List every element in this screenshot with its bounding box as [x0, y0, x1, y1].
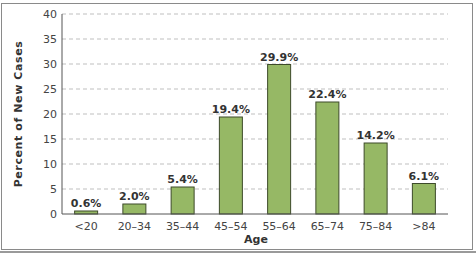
x-tick-label: 45–54 — [214, 220, 248, 233]
bar — [364, 143, 387, 214]
bar — [268, 65, 291, 215]
y-tick-label: 15 — [43, 133, 57, 146]
y-tick-label: 5 — [50, 183, 57, 196]
bar-value-label: 14.2% — [357, 129, 395, 142]
bar — [219, 117, 242, 214]
x-tick-label: 75–84 — [359, 220, 393, 233]
y-axis-label: Percent of New Cases — [12, 41, 25, 188]
y-tick-label: 40 — [43, 8, 57, 21]
bar-value-label: 0.6% — [71, 197, 102, 210]
x-tick-label: >84 — [412, 220, 435, 233]
bar-value-label: 19.4% — [212, 103, 250, 116]
bar — [412, 184, 435, 215]
x-axis-label: Age — [244, 233, 268, 246]
bar — [316, 102, 339, 214]
x-tick-label: 55–64 — [262, 220, 296, 233]
y-tick-label: 20 — [43, 108, 57, 121]
x-tick-label: <20 — [75, 220, 98, 233]
bar-value-label: 2.0% — [119, 190, 150, 203]
bar — [171, 187, 194, 214]
bar — [123, 204, 146, 214]
x-tick-label: 35–44 — [166, 220, 200, 233]
gridlines — [62, 14, 448, 189]
y-tick-label: 25 — [43, 83, 57, 96]
bar-value-label: 29.9% — [260, 51, 298, 64]
y-tick-label: 35 — [43, 33, 57, 46]
y-tick-label: 10 — [43, 158, 57, 171]
bar-value-label: 6.1% — [409, 170, 440, 183]
y-axis-ticks: 0510152025303540 — [43, 8, 57, 221]
y-tick-label: 30 — [43, 58, 57, 71]
bar-chart: 0510152025303540 0.6%2.0%5.4%19.4%29.9%2… — [0, 0, 476, 256]
bar-value-label: 5.4% — [167, 173, 198, 186]
x-axis-ticks: <2020–3435–4445–5455–6465–7475–84>84 — [75, 220, 436, 233]
x-tick-label: 20–34 — [118, 220, 152, 233]
y-tick-label: 0 — [50, 208, 57, 221]
bar-value-label: 22.4% — [308, 88, 346, 101]
x-tick-label: 65–74 — [311, 220, 345, 233]
